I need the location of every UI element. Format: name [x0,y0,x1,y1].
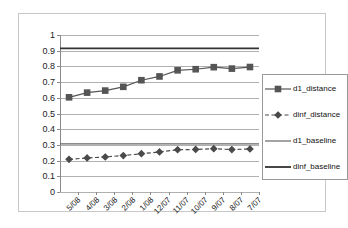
data-point-marker [193,67,198,72]
x-tick-mark [78,192,79,195]
data-point-marker [84,155,90,161]
data-point-marker [121,84,126,89]
x-tick-mark [114,192,115,195]
data-point-marker [211,146,217,152]
y-axis-tick-label: 0.7 [42,78,55,87]
x-tick-mark [150,192,151,195]
x-tick-mark [241,192,242,195]
legend-item-label: d1_distance [293,85,336,93]
x-tick-mark [223,192,224,195]
gridline [60,192,259,193]
legend-item-label: dinf_distance [293,111,340,119]
data-point-marker [85,90,90,95]
legend-item-label: dinf_baseline [293,163,340,171]
data-point-marker [193,146,199,152]
legend-swatch-icon [263,108,293,122]
data-point-marker [247,64,252,69]
x-axis-tick-label-text: 9/07 [211,196,228,213]
y-axis-tick-label: 0.4 [42,125,55,134]
data-point-marker [175,147,181,153]
y-axis-tick-label: 0.6 [42,93,55,102]
x-tick-mark [259,192,260,195]
y-axis-tick-label: 0.5 [42,109,55,118]
data-point-marker [275,86,280,91]
x-axis-tick-label-text: 8/07 [229,196,246,213]
x-axis-tick-label-text: 7/07 [247,196,264,213]
plot-area: 10.90.80.70.60.50.40.30.20.10 5/084/083/… [60,35,259,192]
y-axis-tick-label: 1 [50,31,55,40]
x-axis-tick-label-text: 2/08 [120,196,137,213]
data-point-marker [247,146,253,152]
data-point-marker [66,156,72,162]
series-layer [60,35,259,192]
x-axis-tick-label-text: 5/08 [66,196,83,213]
legend-item-label: d1_baseline [293,137,336,145]
data-point-marker [157,149,163,155]
x-tick-mark [187,192,188,195]
data-point-marker [139,78,144,83]
legend-swatch-icon [263,82,293,96]
data-point-marker [275,112,281,118]
legend-swatch-icon [263,160,293,174]
data-point-marker [138,151,144,157]
legend-item-d1-distance[interactable]: d1_distance [263,76,347,102]
y-axis-tick-label: 0.9 [42,46,55,55]
x-tick-mark [205,192,206,195]
chart-frame: 10.90.80.70.60.50.40.30.20.10 5/084/083/… [18,13,326,212]
series-d1_distance [66,64,252,100]
x-tick-mark [96,192,97,195]
data-point-marker [66,95,71,100]
data-point-marker [229,66,234,71]
y-tick-mark [57,192,60,193]
chart-legend: d1_distancedinf_distanced1_baselinedinf_… [262,74,348,180]
data-point-marker [211,65,216,70]
x-axis-tick-label-text: 3/08 [102,196,119,213]
y-axis-tick-label: 0 [50,188,55,197]
x-tick-mark [132,192,133,195]
data-point-marker [175,68,180,73]
legend-item-dinf-distance[interactable]: dinf_distance [263,102,347,128]
x-axis-tick-label-text: 12/07 [153,196,173,216]
y-axis-tick-label: 0.3 [42,140,55,149]
y-axis-tick-label: 0.8 [42,62,55,71]
x-tick-mark [169,192,170,195]
data-point-marker [103,88,108,93]
data-point-marker [157,74,162,79]
series-dinf_distance [66,146,253,163]
y-axis-tick-label: 0.1 [42,172,55,181]
data-point-marker [229,147,235,153]
legend-swatch-icon [263,134,293,148]
data-point-marker [120,153,126,159]
series-line [69,67,250,97]
y-axis-tick-label: 0.2 [42,156,55,165]
x-axis-tick-label-text: 4/08 [84,196,101,213]
legend-item-d1-baseline[interactable]: d1_baseline [263,128,347,154]
x-axis-tick-label-text: 11/07 [172,196,191,215]
data-point-marker [102,154,108,160]
legend-item-dinf-baseline[interactable]: dinf_baseline [263,154,347,180]
x-axis-tick-label-text: 10/07 [190,196,210,216]
